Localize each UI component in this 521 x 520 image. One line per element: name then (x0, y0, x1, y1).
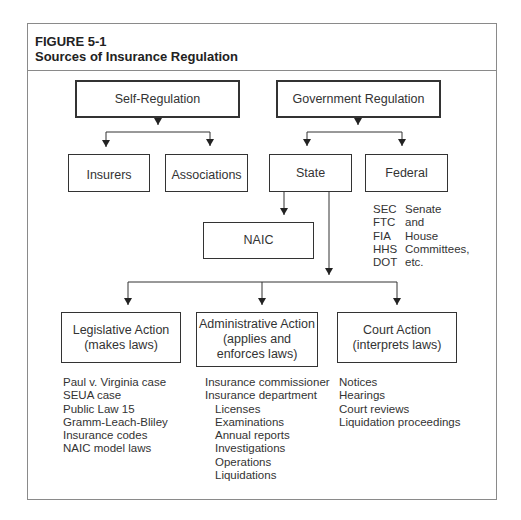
legislative-items-list: Paul v. Virginia case SEUA case Public L… (63, 376, 168, 456)
federal-label: Federal (385, 166, 427, 181)
naic-label: NAIC (244, 233, 274, 248)
federal-agencies-other: Senate and House Committees, etc. (405, 203, 470, 269)
list-item: Insurance department (205, 389, 330, 402)
agency-abbrev: HHS (373, 243, 397, 256)
federal-box: Federal (365, 154, 448, 192)
agency-other: Committees, (405, 243, 470, 256)
list-subitem: Annual reports (205, 429, 330, 442)
list-subitem: Examinations (205, 416, 330, 429)
naic-box: NAIC (203, 222, 314, 259)
administrative-title: Administrative Action (199, 317, 315, 332)
list-item: Notices (339, 376, 460, 389)
list-item: NAIC model laws (63, 442, 168, 455)
list-item: Insurance commissioner (205, 376, 330, 389)
agency-other: etc. (405, 256, 470, 269)
agency-other: House (405, 230, 470, 243)
federal-agencies-abbrev: SEC FTC FIA HHS DOT (373, 203, 397, 269)
government-regulation-box: Government Regulation (276, 80, 441, 118)
state-label: State (296, 166, 325, 181)
list-item: Paul v. Virginia case (63, 376, 168, 389)
court-subtitle: (interprets laws) (353, 338, 442, 353)
list-subitem: Liquidations (205, 469, 330, 482)
list-item: Insurance codes (63, 429, 168, 442)
court-action-box: Court Action (interprets laws) (337, 312, 457, 363)
self-regulation-label: Self-Regulation (115, 92, 200, 107)
list-subitem: Investigations (205, 442, 330, 455)
list-item: Gramm-Leach-Bliley (63, 416, 168, 429)
legislative-title: Legislative Action (73, 323, 170, 338)
court-items-list: Notices Hearings Court reviews Liquidati… (339, 376, 460, 429)
list-item: Hearings (339, 389, 460, 402)
insurers-label: Insurers (86, 168, 131, 183)
associations-box: Associations (165, 154, 248, 192)
administrative-action-box: Administrative Action (applies and enfor… (196, 312, 318, 367)
administrative-subtitle-2: enforces laws) (217, 347, 298, 362)
government-regulation-label: Government Regulation (292, 92, 424, 107)
list-item: Court reviews (339, 403, 460, 416)
agency-other: and (405, 216, 470, 229)
list-item: Public Law 15 (63, 403, 168, 416)
legislative-subtitle: (makes laws) (84, 338, 158, 353)
list-subitem: Operations (205, 456, 330, 469)
administrative-subtitle-1: (applies and (223, 332, 291, 347)
court-title: Court Action (363, 323, 431, 338)
self-regulation-box: Self-Regulation (75, 80, 240, 118)
insurers-box: Insurers (68, 154, 150, 192)
agency-abbrev: SEC (373, 203, 397, 216)
list-item: SEUA case (63, 389, 168, 402)
state-box: State (269, 154, 352, 192)
agency-other: Senate (405, 203, 470, 216)
legislative-action-box: Legislative Action (makes laws) (61, 312, 181, 363)
agency-abbrev: DOT (373, 256, 397, 269)
agency-abbrev: FIA (373, 230, 397, 243)
list-subitem: Licenses (205, 403, 330, 416)
associations-label: Associations (171, 168, 241, 183)
agency-abbrev: FTC (373, 216, 397, 229)
administrative-items-list: Insurance commissioner Insurance departm… (205, 376, 330, 482)
list-item: Liquidation proceedings (339, 416, 460, 429)
